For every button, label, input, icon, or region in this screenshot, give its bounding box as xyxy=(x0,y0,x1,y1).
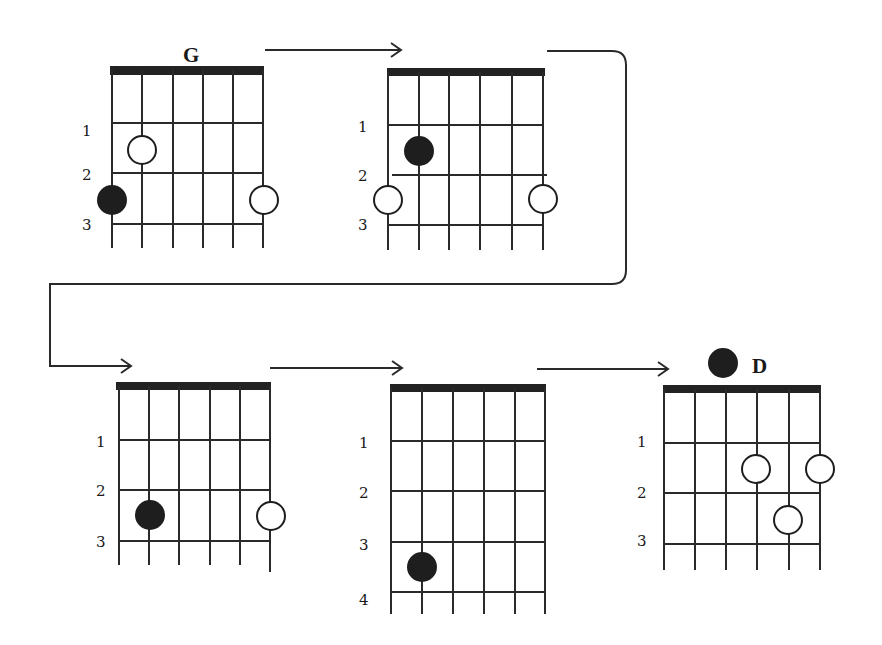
arrow-right-icon xyxy=(265,43,401,57)
chord-diagram-3: 1 2 3 xyxy=(96,382,285,572)
open-finger-marker xyxy=(374,186,402,214)
open-finger-marker xyxy=(529,185,557,213)
nut xyxy=(387,68,545,76)
nut xyxy=(390,384,546,392)
fret-label-3: 3 xyxy=(358,216,368,234)
fret-label-1: 1 xyxy=(358,118,368,136)
filled-finger-marker xyxy=(97,185,127,215)
filled-finger-marker xyxy=(404,136,434,166)
fret-label-2: 2 xyxy=(82,166,92,184)
fret-label-2: 2 xyxy=(359,484,369,502)
filled-finger-marker xyxy=(708,348,738,378)
fret-label-3: 3 xyxy=(637,532,647,550)
strings xyxy=(664,389,820,570)
chord-progression-canvas: G 1 2 3 xyxy=(0,0,882,645)
open-finger-marker xyxy=(742,455,770,483)
fret-label-1: 1 xyxy=(637,433,647,451)
filled-finger-marker xyxy=(407,552,437,582)
fret-label-3: 3 xyxy=(96,533,106,551)
fret-label-4: 4 xyxy=(359,591,369,609)
fret-label-1: 1 xyxy=(82,122,92,140)
open-finger-marker xyxy=(806,455,834,483)
fret-label-3: 3 xyxy=(359,536,369,554)
chord-diagram-g: G 1 2 3 xyxy=(82,43,278,248)
open-finger-marker xyxy=(774,506,802,534)
fret-label-1: 1 xyxy=(96,433,106,451)
nut xyxy=(110,66,264,75)
arrow-right-icon xyxy=(537,362,668,376)
nut xyxy=(663,385,821,393)
fret-label-2: 2 xyxy=(637,484,647,502)
chord-diagram-2: 1 2 3 xyxy=(358,68,557,250)
strings xyxy=(391,388,545,614)
open-finger-marker xyxy=(250,186,278,214)
arrow-right-icon xyxy=(270,361,402,375)
chord-diagram-4: 1 2 3 4 xyxy=(359,384,546,614)
fret-label-3: 3 xyxy=(82,216,92,234)
fret-label-1: 1 xyxy=(359,434,369,452)
chord-name-label: D xyxy=(752,354,767,378)
nut xyxy=(116,382,271,390)
strings xyxy=(119,386,270,572)
fret-label-2: 2 xyxy=(358,167,368,185)
filled-finger-marker xyxy=(135,500,165,530)
open-finger-marker xyxy=(128,136,156,164)
chord-name-label: G xyxy=(183,43,199,67)
chord-diagram-d: D 1 2 3 xyxy=(637,348,834,570)
open-finger-marker xyxy=(257,502,285,530)
fret-label-2: 2 xyxy=(96,482,106,500)
